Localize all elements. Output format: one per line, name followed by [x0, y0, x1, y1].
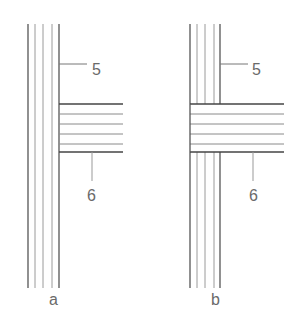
vertical-boards-b-upper — [190, 24, 220, 104]
joint-diagram: 5 6 a — [0, 0, 307, 323]
horizontal-boards-b — [190, 104, 284, 152]
callout-label-6-a: 6 — [87, 187, 96, 204]
callout-label-6-b: 6 — [249, 187, 258, 204]
callout-label-5-a: 5 — [92, 61, 101, 78]
vertical-boards-a — [28, 24, 59, 288]
panel-b: 5 6 b — [190, 24, 284, 308]
panel-caption-a: a — [49, 291, 58, 308]
callout-label-5-b: 5 — [252, 61, 261, 78]
panel-a: 5 6 a — [28, 24, 123, 308]
vertical-boards-b-lower — [190, 152, 220, 288]
panel-caption-b: b — [211, 291, 220, 308]
horizontal-boards-a — [59, 104, 123, 152]
